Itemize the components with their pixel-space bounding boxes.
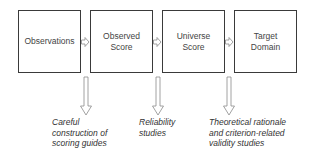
box-label: Target Domain: [251, 31, 280, 53]
box-label: Universe Score: [177, 31, 211, 53]
note-validity: Theoretical rationale and criterion-rela…: [209, 117, 294, 149]
down-arrow-icon: [81, 77, 235, 115]
box-target-domain: Target Domain: [234, 10, 297, 73]
note-reliability: Reliability studies: [139, 117, 189, 138]
note-scoring-guides: Careful construction of scoring guides: [52, 117, 122, 149]
box-universe-score: Universe Score: [162, 10, 225, 73]
box-observations: Observations: [18, 10, 81, 73]
box-observed-score: Observed Score: [90, 10, 153, 73]
box-label: Observed Score: [103, 31, 140, 53]
box-label: Observations: [24, 36, 74, 47]
